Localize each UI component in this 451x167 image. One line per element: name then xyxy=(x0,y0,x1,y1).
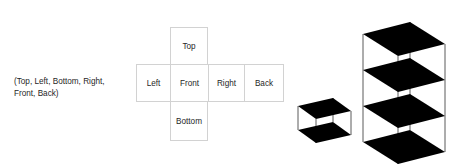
cube-net-diagram: Top Left Front Right Back Bottom xyxy=(136,27,284,141)
cube-bottom-plate xyxy=(298,122,351,143)
stacked-cubes-figure xyxy=(357,4,451,164)
net-cell-top: Top xyxy=(170,27,208,65)
tower-plate-1 xyxy=(363,22,445,56)
net-cell-left: Left xyxy=(136,64,171,102)
stacked-cubes-svg xyxy=(357,4,451,164)
net-cell-back: Back xyxy=(244,64,284,102)
tower-plate-2 xyxy=(363,58,445,92)
tower-plate-4 xyxy=(363,130,445,164)
net-cell-front-label: Front xyxy=(180,79,199,88)
net-cell-bottom-label: Bottom xyxy=(176,117,202,126)
net-cell-front: Front xyxy=(170,64,209,102)
single-cube-svg xyxy=(294,84,356,146)
tower-plate-3 xyxy=(363,94,445,128)
net-cell-back-label: Back xyxy=(255,79,273,88)
cube-top-plate xyxy=(298,98,351,119)
single-cube-figure xyxy=(294,84,356,146)
net-cell-right-label: Right xyxy=(217,79,236,88)
net-cell-right: Right xyxy=(208,64,245,102)
face-order-caption: (Top, Left, Bottom, Right, Front, Back) xyxy=(14,76,136,99)
net-cell-left-label: Left xyxy=(147,79,161,88)
net-cell-bottom: Bottom xyxy=(170,101,208,141)
net-cell-top-label: Top xyxy=(182,42,195,51)
